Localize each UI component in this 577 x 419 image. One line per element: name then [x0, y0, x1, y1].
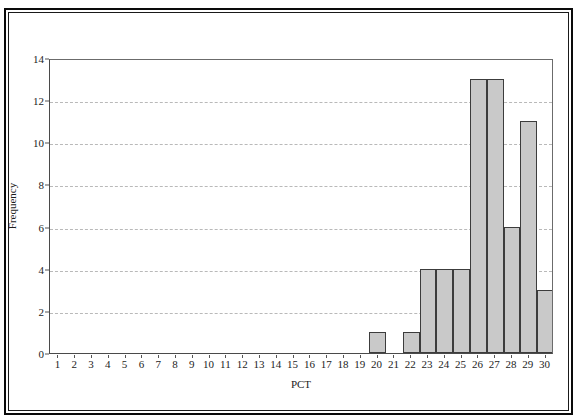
y-tick-label-12: 12 [33, 95, 44, 107]
bar-28[interactable] [504, 227, 521, 353]
x-tick-label-17: 17 [321, 358, 332, 370]
x-tick-label-6: 6 [139, 358, 145, 370]
x-tick-label-9: 9 [189, 358, 195, 370]
bar-26[interactable] [470, 79, 487, 353]
bar-series [50, 60, 552, 353]
x-tick-mark-16 [309, 355, 310, 358]
y-tick-label-0: 0 [39, 348, 45, 360]
x-tick-mark-4 [108, 355, 109, 358]
bar-20[interactable] [369, 332, 386, 353]
x-tick-label-24: 24 [438, 358, 449, 370]
x-axis-ticks: 1234567891011121314151617181920212223242… [49, 355, 553, 375]
x-tick-label-2: 2 [71, 358, 77, 370]
x-axis-title: PCT [291, 378, 311, 390]
x-tick-label-13: 13 [254, 358, 265, 370]
x-tick-mark-3 [91, 355, 92, 358]
x-tick-mark-1 [57, 355, 58, 358]
x-tick-mark-20 [377, 355, 378, 358]
y-tick-label-10: 10 [33, 137, 44, 149]
x-tick-mark-9 [192, 355, 193, 358]
x-tick-mark-26 [477, 355, 478, 358]
x-tick-mark-24 [444, 355, 445, 358]
bar-23[interactable] [420, 269, 437, 353]
x-tick-label-21: 21 [388, 358, 399, 370]
x-tick-mark-11 [225, 355, 226, 358]
x-tick-label-3: 3 [88, 358, 94, 370]
x-tick-mark-27 [494, 355, 495, 358]
x-tick-label-20: 20 [371, 358, 382, 370]
x-tick-label-30: 30 [539, 358, 550, 370]
x-tick-label-14: 14 [270, 358, 281, 370]
x-tick-label-22: 22 [405, 358, 416, 370]
x-tick-mark-14 [276, 355, 277, 358]
bar-24[interactable] [436, 269, 453, 353]
x-tick-mark-25 [461, 355, 462, 358]
x-tick-mark-30 [545, 355, 546, 358]
histogram-chart: Frequency 02468101214 123456789101112131… [6, 10, 575, 417]
bar-29[interactable] [520, 121, 537, 353]
x-tick-mark-6 [141, 355, 142, 358]
x-tick-mark-10 [209, 355, 210, 358]
plot-area [49, 59, 553, 354]
x-tick-mark-13 [259, 355, 260, 358]
y-tick-label-14: 14 [33, 53, 44, 65]
figure-frame: Frequency 02468101214 123456789101112131… [4, 8, 573, 415]
x-tick-mark-22 [410, 355, 411, 358]
x-tick-label-29: 29 [522, 358, 533, 370]
bar-27[interactable] [487, 79, 504, 353]
bar-25[interactable] [453, 269, 470, 353]
x-tick-mark-15 [293, 355, 294, 358]
y-tick-label-6: 6 [39, 222, 45, 234]
x-tick-label-7: 7 [155, 358, 161, 370]
y-axis-ticks: 02468101214 [6, 10, 49, 417]
x-tick-label-5: 5 [122, 358, 128, 370]
x-tick-label-16: 16 [304, 358, 315, 370]
x-tick-mark-5 [125, 355, 126, 358]
x-tick-mark-7 [158, 355, 159, 358]
x-tick-label-23: 23 [422, 358, 433, 370]
x-tick-mark-23 [427, 355, 428, 358]
x-tick-label-27: 27 [489, 358, 500, 370]
x-tick-label-4: 4 [105, 358, 111, 370]
x-tick-label-19: 19 [354, 358, 365, 370]
x-tick-label-1: 1 [55, 358, 61, 370]
x-tick-mark-8 [175, 355, 176, 358]
x-tick-mark-12 [242, 355, 243, 358]
y-tick-label-2: 2 [39, 306, 45, 318]
x-tick-label-28: 28 [506, 358, 517, 370]
x-tick-label-10: 10 [203, 358, 214, 370]
x-tick-mark-21 [393, 355, 394, 358]
x-tick-mark-28 [511, 355, 512, 358]
bar-22[interactable] [403, 332, 420, 353]
x-tick-label-15: 15 [287, 358, 298, 370]
x-tick-label-26: 26 [472, 358, 483, 370]
bar-30[interactable] [537, 290, 553, 353]
x-tick-label-11: 11 [220, 358, 231, 370]
y-tick-label-4: 4 [39, 264, 45, 276]
x-tick-mark-2 [74, 355, 75, 358]
x-tick-mark-18 [343, 355, 344, 358]
x-tick-mark-19 [360, 355, 361, 358]
y-tick-label-8: 8 [39, 179, 45, 191]
x-tick-label-12: 12 [237, 358, 248, 370]
x-tick-label-8: 8 [172, 358, 178, 370]
top-edge-artifact [255, 0, 269, 5]
x-tick-mark-17 [326, 355, 327, 358]
x-tick-mark-29 [528, 355, 529, 358]
x-tick-label-18: 18 [338, 358, 349, 370]
x-tick-label-25: 25 [455, 358, 466, 370]
